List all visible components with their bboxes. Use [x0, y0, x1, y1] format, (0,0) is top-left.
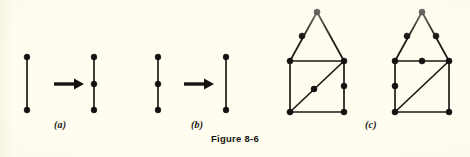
vertex [392, 58, 398, 64]
panel-c: (c) [275, 0, 470, 130]
vertex [446, 58, 452, 64]
vertex [91, 107, 97, 113]
subdivision-vertex [299, 33, 305, 39]
subdivision-vertex [155, 81, 161, 87]
edge [317, 12, 344, 61]
figure-page: (a) (b) [0, 0, 470, 157]
figure-caption: Figure 8-6 [0, 133, 470, 144]
panel-a-diagram [0, 0, 140, 130]
panel-b: (b) [140, 0, 270, 130]
panel-label-a: (a) [54, 119, 66, 130]
edge [395, 61, 449, 112]
vertex [223, 107, 229, 113]
vertex [446, 109, 452, 115]
house-graph-right [392, 9, 452, 115]
transform-arrow-icon [54, 79, 84, 90]
transform-arrow-icon [184, 79, 214, 90]
panel-c-diagram [275, 0, 470, 130]
vertex [287, 58, 293, 64]
subdivision-vertex [433, 33, 439, 39]
vertex [24, 107, 30, 113]
subdivision-vertex [311, 86, 317, 92]
subdivision-vertex [404, 33, 410, 39]
vertex [341, 58, 347, 64]
vertex [392, 109, 398, 115]
panel-label-b: (b) [191, 119, 203, 130]
vertex [91, 54, 97, 60]
house-graph-left [287, 9, 347, 115]
vertex [419, 9, 425, 15]
vertex [341, 109, 347, 115]
subdivision-vertex [392, 83, 398, 89]
panel-b-left-figure [155, 54, 161, 113]
vertex [24, 54, 30, 60]
vertex [155, 54, 161, 60]
subdivision-vertex [91, 81, 97, 87]
edge [290, 61, 344, 112]
panel-a-right-figure [91, 54, 97, 113]
panel-b-right-figure [223, 54, 229, 113]
panel-b-diagram [140, 0, 270, 130]
panel-label-c: (c) [365, 119, 377, 130]
panel-a: (a) [0, 0, 140, 130]
subdivision-vertex [341, 83, 347, 89]
vertex [314, 9, 320, 15]
subdivision-vertex [419, 58, 425, 64]
vertex [287, 109, 293, 115]
vertex [223, 54, 229, 60]
vertex [155, 107, 161, 113]
panel-a-left-figure [24, 54, 30, 113]
